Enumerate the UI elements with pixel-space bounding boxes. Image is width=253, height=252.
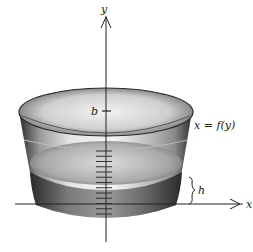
b-label: b	[91, 105, 98, 118]
curve-label: x = f(y)	[194, 119, 235, 132]
h-brace	[189, 177, 195, 204]
y-axis-label: y	[100, 3, 108, 16]
x-axis-label: x	[246, 198, 253, 211]
h-label: h	[198, 184, 205, 197]
diagram-canvas: x y b x = f(y) h	[0, 0, 253, 252]
